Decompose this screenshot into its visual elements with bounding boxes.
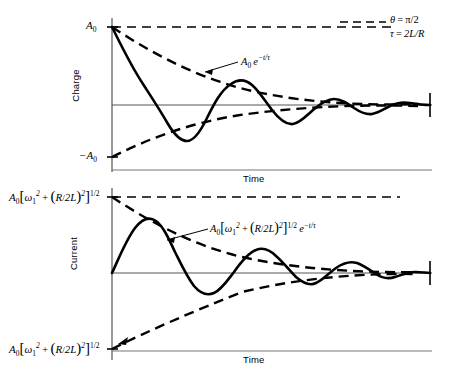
env-bracket-open: [ (220, 220, 225, 235)
frac-2L-bot: 2L (65, 343, 77, 355)
current-envelope-annotation: A0[ω12 + (R/2L)2]1/2 e−t/τ (210, 220, 316, 237)
annot-amp-sub: 0 (247, 61, 251, 70)
panel-current (107, 188, 432, 360)
omega-sup-bot: 2 (36, 341, 40, 350)
half-power-top: 1/2 (90, 189, 100, 198)
current-lower-tick-arrow (118, 337, 128, 345)
env-plus: + (242, 223, 248, 234)
charge-amplitude-positive-label: A0 (86, 19, 96, 34)
figure-damped-oscillation: A0 −A0 Charge Time A0 e−t/τ θ = π/2 τ = … (0, 0, 461, 381)
charge-curve (112, 27, 430, 141)
plus-top: + (42, 191, 48, 203)
env-frac-2L: 2L (263, 223, 274, 234)
condition-theta: θ = π/2 (390, 14, 419, 25)
charge-time-axis-label: Time (243, 173, 265, 184)
charge-axis-label: Charge (70, 69, 81, 101)
charge-amp-neg-sub: 0 (93, 155, 97, 164)
condition-theta-eq: = (397, 14, 403, 25)
charge-envelope-leader-arrow (205, 69, 213, 75)
plus-bot: + (42, 343, 48, 355)
current-amplitude-positive-label: A0[ω12 + (R/2L)2]1/2 (9, 188, 100, 206)
bracket-open-bot: [ (19, 340, 24, 356)
env-omega-sup: 2 (236, 221, 240, 230)
env-half-power: 1/2 (287, 221, 297, 230)
charge-amplitude-negative-label: −A0 (79, 149, 97, 164)
current-axis-label: Current (68, 237, 79, 270)
half-power-bot: 1/2 (90, 341, 100, 350)
panel-charge (107, 18, 432, 172)
annot-exponent: −t/τ (258, 53, 270, 62)
omega-sub-bot: 1 (32, 349, 36, 358)
condition-tau-eq: = (396, 28, 402, 39)
bracket-open-top: [ (19, 188, 24, 204)
current-amplitude-negative-label: A0[ω12 + (R/2L)2]1/2 (9, 340, 100, 358)
frac-2L-top: 2L (65, 191, 77, 203)
charge-envelope-annotation: A0 e−t/τ (241, 53, 270, 70)
current-time-axis-label: Time (243, 354, 265, 365)
env-exponent: −t/τ (304, 221, 316, 230)
condition-tau: τ = 2L/R (390, 28, 424, 39)
charge-amp-pos-sub: 0 (93, 25, 97, 34)
condition-theta-value: π/2 (405, 14, 418, 25)
omega-sub-top: 1 (32, 197, 36, 206)
omega-sup-top: 2 (36, 189, 40, 198)
current-lower-envelope (112, 274, 418, 349)
